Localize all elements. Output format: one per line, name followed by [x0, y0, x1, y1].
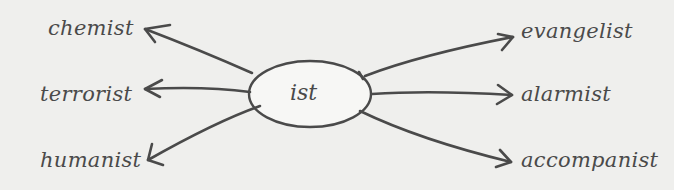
- word-humanist: humanist: [40, 150, 141, 171]
- arrow-to-humanist: [148, 106, 260, 160]
- word-family-diagram: ist chemist terrorist humanist evangelis…: [0, 0, 674, 190]
- center-label: ist: [290, 82, 317, 104]
- arrow-to-chemist: [145, 29, 252, 73]
- word-terrorist: terrorist: [40, 84, 132, 105]
- arrowhead-evangelist-icon: [498, 34, 513, 50]
- arrow-to-alarmist: [372, 92, 512, 95]
- word-chemist: chemist: [48, 18, 134, 39]
- arrow-to-accompanist: [360, 111, 511, 162]
- word-alarmist: alarmist: [521, 84, 611, 105]
- arrow-to-evangelist: [365, 37, 513, 76]
- word-accompanist: accompanist: [521, 150, 658, 171]
- arrow-to-terrorist: [145, 88, 250, 92]
- word-evangelist: evangelist: [521, 21, 633, 42]
